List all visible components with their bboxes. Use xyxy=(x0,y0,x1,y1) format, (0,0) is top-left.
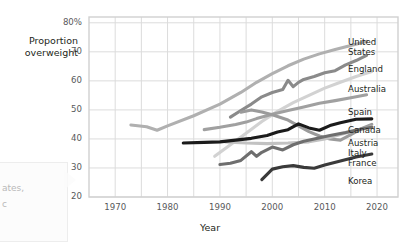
y-axis-tick-label: 50 xyxy=(52,104,82,114)
x-axis-tick-label: 1970 xyxy=(95,202,135,212)
y-axis-tick-label: 40 xyxy=(52,133,82,143)
legend-label-united-states: United States xyxy=(348,38,376,57)
legend-label-korea: Korea xyxy=(348,177,372,187)
callout-bubble xyxy=(0,162,68,242)
callout-text-line-2: c xyxy=(2,199,7,209)
legend-label-spain: Spain xyxy=(348,108,372,118)
legend-label-australia: Australia xyxy=(348,85,386,95)
callout-tail-icon xyxy=(64,170,76,190)
legend-label-england: England xyxy=(348,65,383,75)
y-axis-tick-label: 70 xyxy=(52,46,82,56)
callout-text-line-1: ates, xyxy=(2,183,24,193)
x-axis-tick-label: 2020 xyxy=(357,202,397,212)
x-axis-tick-label: 1980 xyxy=(148,202,188,212)
x-axis-tick-label: 2010 xyxy=(305,202,345,212)
x-axis-title: Year xyxy=(150,222,270,233)
x-axis-tick-label: 2000 xyxy=(252,202,292,212)
chart-container: Proportion overweight 20304050607080%197… xyxy=(0,0,406,242)
legend-label-canada: Canada xyxy=(348,126,381,136)
y-axis-tick-label: 80% xyxy=(52,17,82,27)
y-axis-tick-label: 60 xyxy=(52,75,82,85)
legend-label-france: France xyxy=(348,159,377,169)
x-axis-tick-label: 1990 xyxy=(200,202,240,212)
